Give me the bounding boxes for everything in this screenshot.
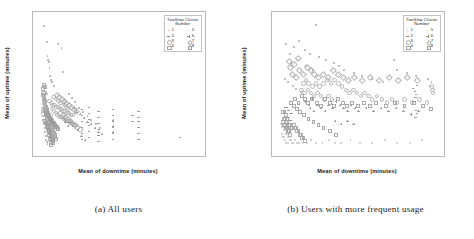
square-marker-icon	[406, 45, 409, 48]
data-point	[306, 142, 308, 144]
legend-entries-a: 15263748	[167, 28, 198, 49]
data-point	[414, 77, 420, 83]
data-point	[402, 97, 407, 102]
data-point	[283, 136, 285, 138]
x-tick-b-0: 0	[278, 156, 281, 157]
data-point	[46, 41, 48, 43]
x-tick-b-1500: 1500	[367, 156, 377, 157]
y-tick-b-40: 40	[271, 19, 272, 24]
square-marker-icon	[167, 45, 170, 48]
data-point	[82, 111, 84, 113]
legend-label: 8	[192, 44, 194, 49]
data-point	[97, 131, 99, 133]
data-point	[380, 107, 382, 109]
plus-marker-icon	[426, 35, 429, 38]
data-point	[288, 136, 290, 138]
data-point	[286, 133, 288, 135]
data-point	[285, 117, 289, 121]
data-point	[290, 113, 292, 114]
data-point	[376, 77, 382, 83]
data-point	[325, 59, 327, 61]
dot-marker-icon	[426, 29, 429, 32]
data-point	[81, 135, 83, 137]
data-point	[97, 135, 99, 136]
x-tick-a-12000: 12000	[179, 156, 192, 157]
data-point	[88, 113, 90, 114]
data-point	[325, 74, 331, 80]
data-point	[61, 47, 63, 49]
data-point	[421, 104, 425, 108]
data-point	[137, 127, 139, 128]
data-point	[412, 88, 414, 89]
legend-label: 4	[411, 44, 413, 49]
dot-marker-icon	[187, 29, 190, 32]
data-point	[334, 142, 336, 144]
data-point	[336, 97, 340, 101]
legend-item-8: 8	[187, 44, 198, 49]
data-point	[322, 142, 324, 144]
data-point	[97, 111, 99, 112]
data-point	[315, 24, 317, 26]
opencircle-marker-icon	[167, 40, 170, 43]
data-point	[81, 133, 83, 134]
data-point	[287, 142, 289, 144]
legend-label: 8	[431, 44, 433, 49]
data-point	[429, 107, 433, 111]
data-point	[45, 135, 47, 137]
data-point	[353, 123, 355, 125]
data-point	[284, 139, 286, 141]
diamond-marker-icon	[426, 40, 429, 43]
data-point	[417, 110, 419, 112]
data-point	[356, 104, 360, 108]
data-point	[319, 104, 323, 108]
x-tick-b-2000: 2000	[398, 156, 408, 157]
data-point	[350, 101, 354, 105]
data-point	[338, 65, 340, 67]
y-tick-a-60: 60	[32, 26, 33, 31]
legend-b: TwoStep Cluster Number 15263748	[403, 15, 441, 52]
data-point	[284, 78, 286, 80]
data-point	[340, 123, 342, 125]
data-point	[298, 142, 300, 144]
data-point	[131, 115, 133, 116]
data-point	[112, 131, 114, 133]
data-point	[88, 107, 90, 108]
data-point	[345, 77, 351, 83]
data-point	[90, 119, 92, 121]
panel-a: Mean of uptime (minutes) TwoStep Cluster…	[0, 0, 237, 239]
data-point	[84, 139, 86, 141]
figure-two-panel-scatter: Mean of uptime (minutes) TwoStep Cluster…	[0, 0, 474, 239]
data-point	[88, 137, 90, 138]
y-tick-a-40: 40	[32, 66, 33, 71]
data-point	[309, 53, 311, 55]
panel-b: Mean of uptime (minutes) TwoStep Cluster…	[237, 0, 474, 239]
y-axis-title-b: Mean of uptime (minutes)	[239, 11, 249, 155]
data-point	[281, 133, 283, 135]
x-axis-title-b: Mean of downtime (minutes)	[271, 168, 443, 174]
x-tick-a-6000: 6000	[108, 156, 118, 157]
x-tick-b-1000: 1000	[336, 156, 346, 157]
data-point	[306, 101, 310, 105]
data-point	[83, 117, 85, 119]
data-point	[293, 46, 295, 48]
plot-area-a: TwoStep Cluster Number 15263748 02040600…	[32, 11, 206, 157]
data-point	[297, 101, 301, 105]
data-point	[289, 53, 291, 55]
data-point	[287, 81, 289, 83]
data-point	[112, 109, 114, 110]
data-point	[295, 88, 297, 90]
data-point	[431, 81, 433, 83]
data-point	[412, 101, 416, 105]
data-point	[396, 69, 398, 71]
data-point	[384, 104, 388, 108]
data-point	[359, 77, 365, 83]
legend-item-4: 4	[406, 44, 417, 49]
subcaption-a: (a) All users	[0, 204, 237, 214]
data-point	[137, 139, 139, 140]
data-point	[346, 120, 348, 122]
data-point	[57, 43, 59, 45]
y-tick-b-20: 20	[271, 83, 272, 88]
data-point	[81, 115, 83, 116]
data-point	[43, 85, 47, 89]
data-point	[341, 101, 345, 105]
